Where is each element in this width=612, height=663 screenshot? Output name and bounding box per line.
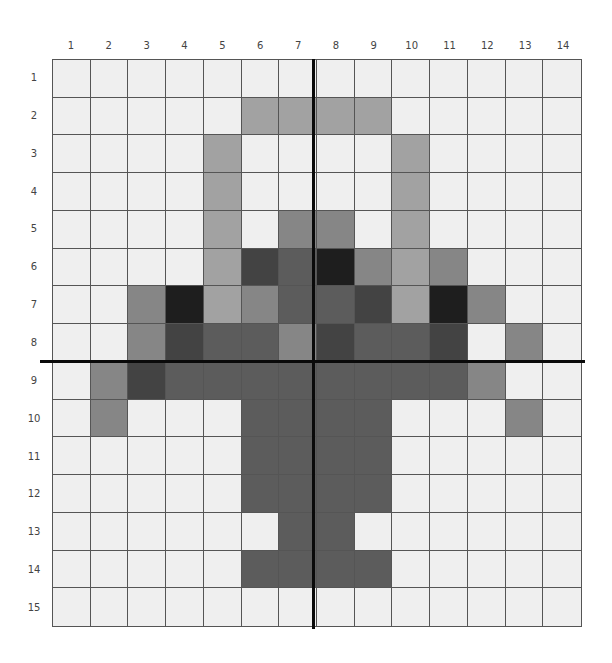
grid-cell — [128, 286, 166, 324]
grid-cell — [166, 173, 204, 211]
column-label: 5 — [203, 38, 241, 54]
grid-cell — [392, 475, 430, 513]
grid-cell — [355, 588, 393, 626]
grid-cell — [204, 98, 242, 136]
row-label: 13 — [20, 513, 48, 551]
grid-cell — [166, 98, 204, 136]
column-label: 8 — [317, 38, 355, 54]
grid-cell — [128, 60, 166, 98]
row-label: 4 — [20, 173, 48, 211]
grid-cell — [392, 437, 430, 475]
row-label: 10 — [20, 400, 48, 438]
grid-cell — [317, 400, 355, 438]
grid-cell — [468, 286, 506, 324]
grid-cell — [166, 249, 204, 287]
grid-cell — [430, 400, 468, 438]
grid-cell — [166, 513, 204, 551]
grid-cell — [543, 173, 581, 211]
grid-cell — [91, 362, 129, 400]
grid-cell — [242, 324, 280, 362]
grid-cell — [468, 211, 506, 249]
grid-cell — [468, 98, 506, 136]
grid-cell — [468, 324, 506, 362]
grid-cell — [204, 135, 242, 173]
grid-cell — [392, 173, 430, 211]
grid-cell — [166, 400, 204, 438]
row-label: 8 — [20, 324, 48, 362]
column-label: 13 — [506, 38, 544, 54]
grid-cell — [242, 98, 280, 136]
grid-cell — [317, 249, 355, 287]
grid-cell — [128, 362, 166, 400]
grid-cell — [242, 437, 280, 475]
grid-cell — [166, 324, 204, 362]
grid-cell — [53, 437, 91, 475]
column-label: 6 — [241, 38, 279, 54]
grid-cell — [506, 475, 544, 513]
grid-cell — [166, 437, 204, 475]
grid-cell — [242, 475, 280, 513]
grid-cell — [53, 513, 91, 551]
grid-cell — [53, 135, 91, 173]
grid-cell — [543, 98, 581, 136]
grid-cell — [242, 400, 280, 438]
grid-cell — [355, 400, 393, 438]
grid-cell — [430, 475, 468, 513]
grid-cell — [128, 173, 166, 211]
grid-cell — [91, 249, 129, 287]
grid-cell — [430, 60, 468, 98]
grid-cell — [468, 475, 506, 513]
grid-cell — [242, 588, 280, 626]
grid-cell — [392, 60, 430, 98]
grid-cell — [506, 437, 544, 475]
grid-cell — [430, 324, 468, 362]
grid-cell — [204, 400, 242, 438]
grid-cell — [204, 588, 242, 626]
grid-cell — [204, 60, 242, 98]
vertical-axis-line — [312, 59, 315, 629]
grid-cell — [91, 437, 129, 475]
grid-cell — [355, 60, 393, 98]
grid-cell — [506, 98, 544, 136]
grid-cell — [204, 475, 242, 513]
grid-cell — [506, 173, 544, 211]
grid-cell — [91, 400, 129, 438]
grid-cell — [468, 249, 506, 287]
grid-cell — [128, 588, 166, 626]
grid-cell — [543, 211, 581, 249]
grid-cell — [53, 211, 91, 249]
grid-cell — [506, 513, 544, 551]
column-label: 4 — [166, 38, 204, 54]
grid-cell — [355, 249, 393, 287]
grid-cell — [91, 135, 129, 173]
grid-cell — [543, 475, 581, 513]
grid-cell — [317, 60, 355, 98]
grid-cell — [468, 437, 506, 475]
grid-cell — [91, 173, 129, 211]
grid-cell — [128, 98, 166, 136]
grid-cell — [53, 60, 91, 98]
grid-cell — [317, 173, 355, 211]
grid-cell — [53, 173, 91, 211]
grid-cell — [392, 400, 430, 438]
grid-cell — [430, 551, 468, 589]
grid-cell — [128, 513, 166, 551]
grid-cell — [506, 324, 544, 362]
horizontal-axis-line — [40, 360, 585, 363]
grid-cell — [392, 286, 430, 324]
pixel-grid — [52, 59, 582, 627]
grid-cell — [53, 588, 91, 626]
grid-cell — [355, 324, 393, 362]
row-labels: 123456789101112131415 — [20, 59, 48, 627]
grid-cell — [430, 173, 468, 211]
grid-cell — [355, 362, 393, 400]
grid-cell — [204, 551, 242, 589]
grid-cell — [430, 513, 468, 551]
grid-cell — [242, 173, 280, 211]
grid-cell — [392, 324, 430, 362]
grid-cell — [355, 98, 393, 136]
grid-cell — [317, 551, 355, 589]
grid-cell — [317, 324, 355, 362]
grid-cell — [543, 437, 581, 475]
row-label: 6 — [20, 248, 48, 286]
